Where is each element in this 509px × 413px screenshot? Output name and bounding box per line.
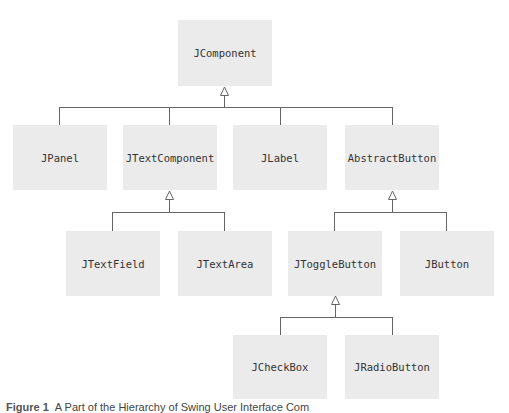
arrowhead-jtextcomponent-icon: [166, 191, 174, 200]
node-jtextcomponent: JTextComponent: [123, 125, 217, 190]
figure-caption-text: A Part of the Hierarchy of Swing User In…: [55, 401, 309, 413]
node-abstractbutton: AbstractButton: [345, 125, 439, 190]
node-jtogglebutton: JToggleButton: [288, 231, 382, 296]
node-jtextarea: JTextArea: [178, 231, 272, 296]
arrowhead-jtogglebutton-icon: [332, 296, 340, 305]
node-jradiobutton: JRadioButton: [345, 335, 439, 399]
figure-caption: Figure 1A Part of the Hierarchy of Swing…: [6, 401, 309, 413]
node-jcomponent: JComponent: [178, 20, 272, 86]
node-jcheckbox: JCheckBox: [233, 335, 327, 399]
arrowhead-abstractbutton-icon: [389, 191, 397, 200]
figure-number: Figure 1: [6, 401, 49, 413]
node-jpanel: JPanel: [13, 125, 107, 190]
node-jbutton: JButton: [400, 231, 494, 296]
node-jlabel: JLabel: [233, 125, 327, 190]
arrowhead-jcomponent-icon: [221, 87, 229, 96]
node-jtextfield: JTextField: [66, 231, 160, 296]
